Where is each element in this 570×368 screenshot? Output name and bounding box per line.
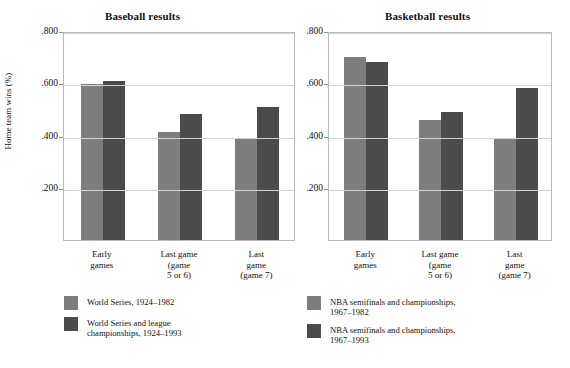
legend-row: World Series and league championships, 1… [64,317,279,338]
y-axis-title: Home team wins (%) [3,51,13,171]
legend-row: NBA semifinals and championships, 1967–1… [307,296,557,317]
gridline [64,190,294,191]
y-tick-mark [324,84,328,85]
y-tick-label: .800 [281,27,323,37]
gridline [64,33,294,34]
bar [180,114,202,240]
chart-panel-basketball: Basketball results .200.400.600.800 Earl… [285,0,570,368]
legend-label: NBA semifinals and championships, 1967–1… [330,324,456,345]
gridline [64,138,294,139]
y-tick-label: .400 [16,132,58,142]
y-tick-mark [59,84,63,85]
legend-label: World Series, 1924–1982 [87,296,174,307]
legend-baseball: World Series, 1924–1982World Series and … [64,296,279,345]
bar [366,62,388,240]
bars-layer-basketball [329,33,551,240]
y-tick-label: .200 [281,184,323,194]
y-tick-label: .200 [16,184,58,194]
bar [103,81,125,240]
x-axis-category-label: Last game (game 7) [470,249,560,281]
y-tick-mark [324,32,328,33]
legend-row: World Series, 1924–1982 [64,296,279,310]
y-tick-mark [324,189,328,190]
gridline [329,138,551,139]
y-tick-mark [324,137,328,138]
figure-canvas: Baseball results Home team wins (%) .200… [0,0,570,368]
y-tick-mark [59,137,63,138]
plot-area-baseball [63,32,295,241]
chart-title-basketball: Basketball results [285,10,570,22]
bar [158,132,180,240]
gridline [64,85,294,86]
plot-area-basketball [328,32,552,241]
legend-swatch [64,317,78,331]
bars-layer-baseball [64,33,294,240]
y-tick-label: .800 [16,27,58,37]
legend-row: NBA semifinals and championships, 1967–1… [307,324,557,345]
gridline [329,85,551,86]
bar [516,88,538,240]
legend-swatch [307,324,321,338]
gridline [329,190,551,191]
chart-panel-baseball: Baseball results Home team wins (%) .200… [0,0,285,368]
y-tick-label: .400 [281,132,323,142]
legend-swatch [307,296,321,310]
y-tick-mark [59,189,63,190]
y-tick-label: .600 [16,79,58,89]
y-tick-mark [59,32,63,33]
chart-title-baseball: Baseball results [0,10,285,22]
legend-basketball: NBA semifinals and championships, 1967–1… [307,296,557,352]
legend-swatch [64,296,78,310]
legend-label: NBA semifinals and championships, 1967–1… [330,296,456,317]
legend-label: World Series and league championships, 1… [87,317,182,338]
bar [257,107,279,240]
bar [441,112,463,240]
y-tick-label: .600 [281,79,323,89]
bar [81,84,103,240]
gridline [329,33,551,34]
